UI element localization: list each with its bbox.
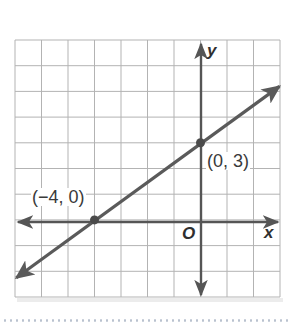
grid-shadow: [17, 298, 283, 302]
point-y-intercept: [196, 138, 205, 147]
y-axis-label: y: [207, 42, 216, 59]
point-label-y-intercept: (0, 3): [206, 152, 250, 170]
point-x-intercept: [90, 215, 99, 224]
point-label-x-intercept: (−4, 0): [31, 188, 86, 206]
x-axis-label: x: [264, 224, 273, 241]
dotted-separator: [2, 319, 290, 322]
origin-label: O: [182, 225, 195, 242]
